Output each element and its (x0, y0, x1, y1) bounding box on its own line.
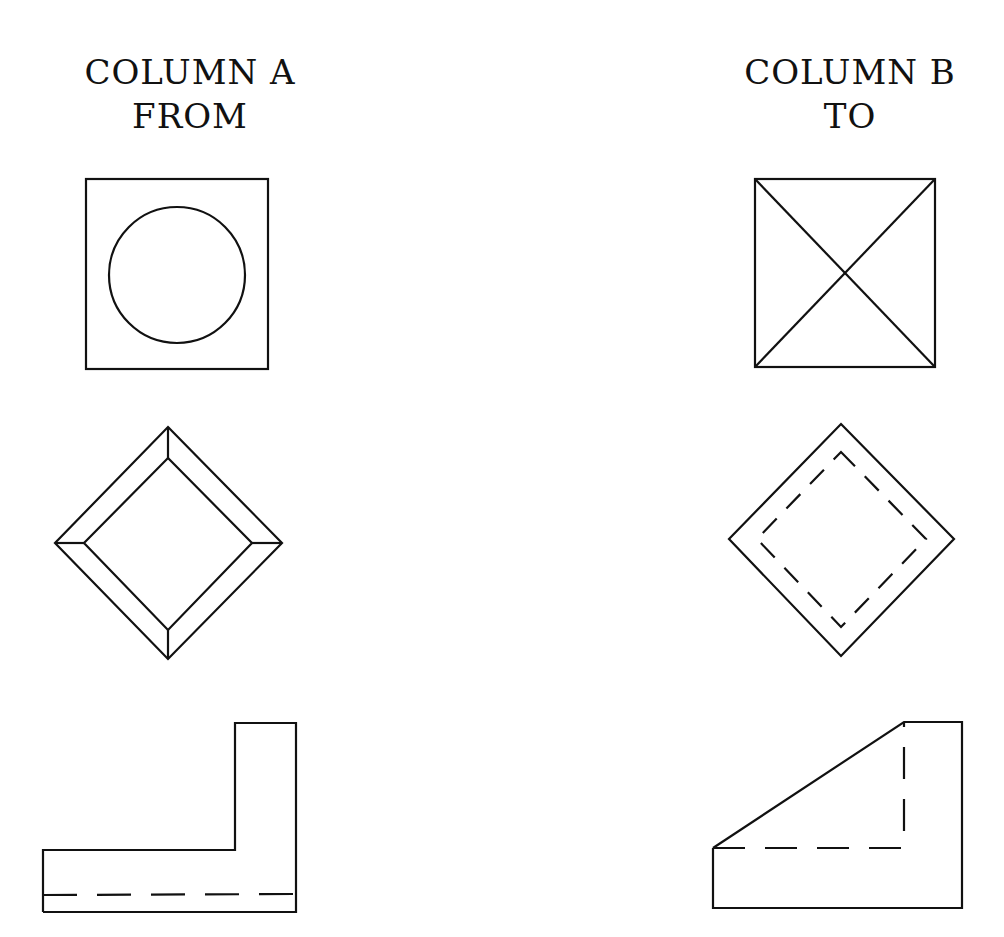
diagram-canvas (0, 0, 1004, 937)
outer-diamond (729, 424, 954, 656)
figure-b2-diamond-hidden-inner (729, 424, 954, 656)
figure-b3-wedge (713, 722, 962, 908)
circle (109, 207, 245, 343)
inner-diamond (84, 458, 252, 630)
l-outline (43, 723, 296, 912)
outer-diamond (55, 427, 282, 659)
figure-a1-circle-in-square (86, 179, 268, 369)
hidden-inner-diamond (757, 452, 926, 627)
figure-a2-beveled-diamond (55, 427, 282, 659)
figure-b1-square-with-diagonals (755, 179, 935, 367)
hidden-line (43, 894, 296, 895)
figure-a3-l-shape (43, 723, 296, 912)
wedge-outline (713, 722, 962, 908)
